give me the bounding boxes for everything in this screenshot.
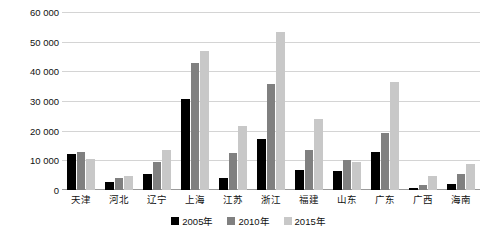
x-axis-tick-labels: 天津河北辽宁上海江苏浙江福建山东广东广西海南 [62, 192, 480, 206]
bar [86, 159, 95, 190]
bar [238, 126, 247, 190]
bar [457, 174, 466, 190]
y-tick-label-0: 0 [3, 185, 59, 196]
bar [295, 170, 304, 190]
bar [447, 184, 456, 190]
x-tick-label: 广东 [366, 192, 404, 206]
y-tick-label-4: 40 000 [3, 66, 59, 77]
bar-group [100, 12, 138, 190]
bar [153, 162, 162, 190]
legend-swatch-icon [227, 217, 235, 225]
legend-item: 2005年 [171, 214, 213, 228]
bar-group [252, 12, 290, 190]
bar [77, 152, 86, 190]
legend-label: 2015年 [295, 214, 326, 228]
bar-group [214, 12, 252, 190]
y-tick-label-5: 50 000 [3, 36, 59, 47]
bar [267, 84, 276, 190]
bar [371, 152, 380, 190]
y-tick-label-1: 10 000 [3, 155, 59, 166]
bar [390, 82, 399, 190]
bar-group [290, 12, 328, 190]
x-tick-label: 河北 [100, 192, 138, 206]
bar [466, 164, 475, 190]
legend-label: 2010年 [238, 214, 269, 228]
bar [381, 133, 390, 190]
y-tick-label-6: 60 000 [3, 7, 59, 18]
legend-item: 2015年 [284, 214, 326, 228]
bar-chart: 0 10 000 20 000 30 000 40 000 50 000 60 … [0, 0, 497, 248]
bar-group [62, 12, 100, 190]
bar [162, 150, 171, 190]
bar-group [138, 12, 176, 190]
y-tick-label-2: 20 000 [3, 125, 59, 136]
x-tick-label: 辽宁 [138, 192, 176, 206]
bar-group [176, 12, 214, 190]
x-tick-label: 福建 [290, 192, 328, 206]
legend-swatch-icon [284, 217, 292, 225]
bar [115, 178, 124, 190]
bar [67, 154, 76, 190]
x-tick-label: 山东 [328, 192, 366, 206]
bar-group [442, 12, 480, 190]
bar [200, 51, 209, 190]
bar [409, 188, 418, 190]
bar [276, 32, 285, 190]
legend-swatch-icon [171, 217, 179, 225]
x-tick-label: 天津 [62, 192, 100, 206]
chart-legend: 2005年2010年2015年 [0, 214, 497, 228]
bar [219, 178, 228, 190]
y-tick-label-3: 30 000 [3, 96, 59, 107]
bar [333, 171, 342, 190]
bar-group [404, 12, 442, 190]
legend-label: 2005年 [182, 214, 213, 228]
legend-item: 2010年 [227, 214, 269, 228]
bar [419, 185, 428, 190]
x-tick-label: 上海 [176, 192, 214, 206]
bar [352, 162, 361, 190]
x-tick-label: 江苏 [214, 192, 252, 206]
x-tick-label: 浙江 [252, 192, 290, 206]
bar [181, 99, 190, 190]
x-tick-label: 海南 [442, 192, 480, 206]
bar [428, 176, 437, 190]
bar [305, 150, 314, 190]
bar [257, 139, 266, 190]
bar [191, 63, 200, 190]
x-tick-label: 广西 [404, 192, 442, 206]
bar [229, 153, 238, 190]
bar-group [328, 12, 366, 190]
bar [124, 176, 133, 190]
bar [105, 182, 114, 190]
bar [314, 119, 323, 190]
bar-groups [62, 12, 480, 190]
bar [343, 160, 352, 190]
bar-group [366, 12, 404, 190]
bar [143, 174, 152, 190]
